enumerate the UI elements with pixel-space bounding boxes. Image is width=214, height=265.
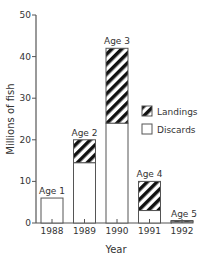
- bar-discards: [106, 123, 128, 223]
- legend-landings-swatch: [142, 106, 152, 116]
- x-tick-label: 1990: [106, 226, 129, 236]
- y-axis-label: Millions of fish: [5, 83, 16, 154]
- bar-landings: [139, 181, 161, 210]
- x-tick-label: 1991: [138, 226, 161, 236]
- bar-age-label: Age 1: [39, 186, 65, 196]
- x-tick-label: 1989: [73, 226, 96, 236]
- y-tick-label: 30: [20, 93, 32, 103]
- legend-landings-label: Landings: [157, 107, 198, 117]
- bar-discards: [74, 163, 96, 223]
- x-tick-label: 1992: [171, 226, 194, 236]
- bar-age-label: Age 2: [72, 128, 98, 138]
- bars: 1988Age 11989Age 21990Age 31991Age 41992…: [39, 36, 197, 236]
- y-tick-label: 40: [20, 52, 32, 62]
- bar-age-label: Age 3: [104, 36, 130, 46]
- legend: LandingsDiscards: [142, 106, 198, 135]
- bar-landings: [74, 140, 96, 163]
- x-tick-label: 1988: [41, 226, 64, 236]
- legend-discards-swatch: [142, 124, 152, 134]
- x-axis-label: Year: [104, 244, 127, 255]
- y-tick-label: 50: [20, 10, 32, 20]
- bar-landings: [106, 48, 128, 123]
- legend-discards-label: Discards: [157, 125, 196, 135]
- y-tick-label: 20: [20, 135, 32, 145]
- stacked-bar-chart: 01020304050Millions of fishYear 1988Age …: [0, 0, 214, 265]
- y-tick-label: 0: [25, 218, 31, 228]
- bar-age-label: Age 5: [171, 209, 197, 219]
- bar-age-label: Age 4: [137, 169, 163, 179]
- y-tick-label: 10: [20, 176, 32, 186]
